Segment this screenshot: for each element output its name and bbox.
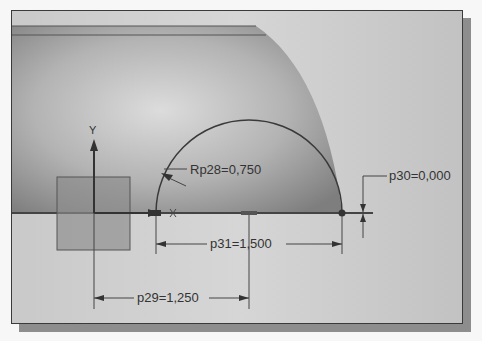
y-axis-label: Y xyxy=(89,124,96,136)
dimension-p31[interactable]: p31=1,500 xyxy=(210,236,272,251)
arc-start-point[interactable] xyxy=(151,210,161,216)
arc-end-point[interactable] xyxy=(339,210,346,217)
dimension-p30[interactable]: p30=0,000 xyxy=(389,168,451,183)
dimension-rp28[interactable]: Rp28=0,750 xyxy=(190,162,261,177)
arc-center-marker xyxy=(241,211,257,215)
dimension-p29[interactable]: p29=1,250 xyxy=(137,290,199,305)
